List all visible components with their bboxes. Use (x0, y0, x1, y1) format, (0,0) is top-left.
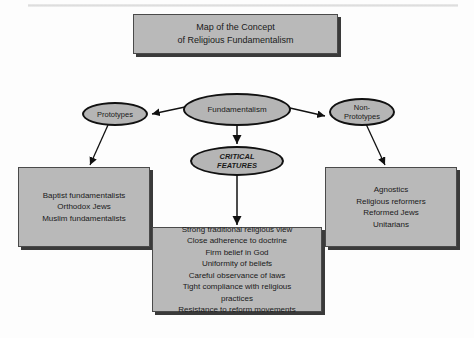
node-non-prototypes: Non- Prototypes (329, 98, 395, 126)
diagram-title-box: Map of the Concept of Religious Fundamen… (133, 14, 338, 54)
node-fundamentalism: Fundamentalism (183, 93, 291, 126)
box-prototype-examples: Baptist fundamentalists Orthodox Jews Mu… (18, 167, 150, 247)
edge-prototypes-to-examples (90, 125, 108, 165)
edge-nonprototypes-to-examples (366, 124, 385, 165)
node-critical-features: CRITICAL FEATURES (190, 146, 284, 176)
header-divider (28, 4, 458, 7)
node-prototypes: Prototypes (82, 102, 148, 126)
box-non-prototype-examples: Agnostics Religious reformers Reformed J… (325, 167, 457, 247)
diagram-canvas: Map of the Concept of Religious Fundamen… (0, 0, 474, 338)
edge-fundamentalism-to-prototypes (152, 107, 185, 114)
box-critical-features-list: Strong traditional religious view Close … (152, 227, 322, 312)
edge-fundamentalism-to-nonprototypes (290, 108, 325, 116)
